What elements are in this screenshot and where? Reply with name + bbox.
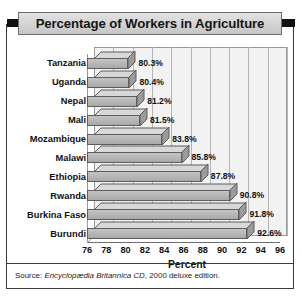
bar <box>87 70 136 81</box>
value-tick-label: 96 <box>275 245 285 255</box>
bar-value-label: 83.8% <box>172 134 196 145</box>
bar <box>87 51 135 62</box>
bar-front-face <box>87 152 182 163</box>
bar-front-face <box>87 209 239 220</box>
plot-area: 80.3%80.4%81.2%81.5%83.8%85.8%87.8%90.8%… <box>87 47 287 243</box>
bar-side-face <box>162 127 170 146</box>
value-tick-label: 88 <box>198 245 208 255</box>
source-note: Source: Encyclopædia Britannica CD, 2000… <box>15 271 220 280</box>
bar-side-face <box>128 51 136 70</box>
category-label: Mali <box>14 115 86 125</box>
bar-value-label: 80.3% <box>138 58 162 69</box>
source-prefix: Source: <box>15 271 44 280</box>
value-axis-ticks: 7678808284868890929496 <box>87 245 287 259</box>
bar-front-face <box>87 171 201 182</box>
source-divider <box>7 263 293 264</box>
value-tick-label: 94 <box>256 245 266 255</box>
bar-side-face <box>140 108 148 127</box>
bar <box>87 221 254 232</box>
bar-side-face <box>182 145 190 164</box>
source-title: Encyclopædia Britannica CD <box>44 271 144 280</box>
category-label: Malawi <box>14 153 86 163</box>
bar-front-face <box>87 96 137 107</box>
bar-value-label: 90.8% <box>240 190 264 201</box>
category-label: Mozambique <box>14 134 86 144</box>
bar-front-face <box>87 77 129 88</box>
value-tick-label: 86 <box>178 245 188 255</box>
bar-front-face <box>87 115 140 126</box>
bar <box>87 202 246 213</box>
bar-value-label: 81.2% <box>147 96 171 107</box>
bar <box>87 145 189 156</box>
bar-value-label: 85.8% <box>192 152 216 163</box>
value-tick-label: 78 <box>101 245 111 255</box>
gridline <box>248 47 249 236</box>
bar-value-label: 80.4% <box>139 77 163 88</box>
bar-value-label: 92.6% <box>257 228 281 239</box>
title-banner-right-tab <box>281 19 295 27</box>
bar <box>87 89 144 100</box>
gridline <box>268 47 269 236</box>
bar <box>87 183 237 194</box>
source-suffix: , 2000 deluxe edition. <box>145 271 220 280</box>
chart-title-banner: Percentage of Workers in Agriculture <box>18 12 282 35</box>
bar-front-face <box>87 58 128 69</box>
category-label: Tanzania <box>14 58 86 68</box>
bar-front-face <box>87 190 230 201</box>
bar <box>87 127 169 138</box>
gridline <box>287 47 288 236</box>
value-tick-label: 84 <box>159 245 169 255</box>
bar-value-label: 87.8% <box>211 171 235 182</box>
category-label: Uganda <box>14 77 86 87</box>
bar-value-label: 91.8% <box>249 209 273 220</box>
category-label: Burundi <box>14 229 86 239</box>
bar-value-label: 81.5% <box>150 115 174 126</box>
bar-side-face <box>230 183 238 202</box>
value-tick-label: 90 <box>217 245 227 255</box>
category-label: Ethiopia <box>14 172 86 182</box>
chart-frame: TanzaniaUgandaNepalMaliMozambiqueMalawiE… <box>6 24 294 289</box>
bar-side-face <box>201 164 209 183</box>
bar-front-face <box>87 134 162 145</box>
chart-title: Percentage of Workers in Agriculture <box>36 16 265 31</box>
category-label: Burkina Faso <box>14 210 86 220</box>
category-axis-labels: TanzaniaUgandaNepalMaliMozambiqueMalawiE… <box>14 47 86 263</box>
category-label: Nepal <box>14 96 86 106</box>
bar-front-face <box>87 228 247 239</box>
bar-side-face <box>247 221 255 240</box>
bar-side-face <box>137 89 145 108</box>
bar <box>87 164 208 175</box>
category-label: Rwanda <box>14 191 86 201</box>
value-axis-title: Percent <box>87 259 287 270</box>
plot-wrapper: TanzaniaUgandaNepalMaliMozambiqueMalawiE… <box>14 47 287 263</box>
bar <box>87 108 147 119</box>
value-tick-label: 76 <box>82 245 92 255</box>
bar-side-face <box>129 70 137 89</box>
chart-screenshot: Percentage of Workers in Agriculture Tan… <box>0 0 302 301</box>
value-tick-label: 80 <box>120 245 130 255</box>
value-tick-label: 92 <box>236 245 246 255</box>
value-tick-label: 82 <box>140 245 150 255</box>
bar-side-face <box>239 202 247 221</box>
